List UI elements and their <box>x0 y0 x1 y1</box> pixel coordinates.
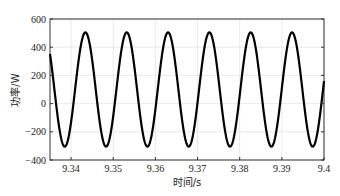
x-tick-label: 9.35 <box>104 163 122 174</box>
x-tick-label: 9.36 <box>147 163 165 174</box>
y-axis-title: 功率/W <box>9 73 21 106</box>
y-tick-label: 200 <box>31 70 46 81</box>
x-tick-label: 9.39 <box>273 163 291 174</box>
y-tick-label: −200 <box>25 126 46 137</box>
power-series-line <box>50 32 324 146</box>
y-axis-ticks: 6004002000−200−400 <box>25 14 324 166</box>
x-tick-label: 9.37 <box>189 163 207 174</box>
x-axis-title: 时间/s <box>173 176 202 188</box>
y-tick-label: 600 <box>31 14 46 25</box>
x-tick-label: 9.38 <box>231 163 249 174</box>
y-tick-label: −400 <box>25 155 46 166</box>
power-time-chart: 9.349.359.369.379.389.399.4 6004002000−2… <box>0 0 340 196</box>
grid-lines <box>50 19 324 160</box>
plot-area-frame <box>50 19 324 160</box>
x-tick-label: 9.4 <box>318 163 331 174</box>
y-tick-label: 0 <box>41 98 46 109</box>
y-tick-label: 400 <box>31 42 46 53</box>
x-tick-label: 9.34 <box>62 163 80 174</box>
